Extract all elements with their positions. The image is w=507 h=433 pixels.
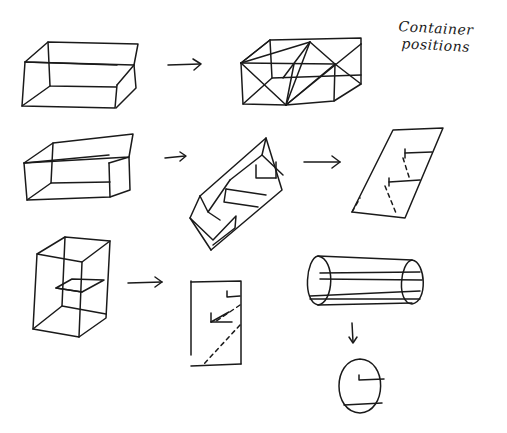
box-horizontal-triangulated-stroke <box>270 40 272 78</box>
box-rotated-on-edge-stroke <box>190 216 236 245</box>
arrow-1-stroke <box>168 64 200 65</box>
sketch-canvas <box>0 0 507 433</box>
arrow-1 <box>168 59 201 70</box>
cylinder-stroke <box>307 256 330 305</box>
box-tilted-stroke <box>27 183 51 200</box>
box-horizontal-triangulated-stroke <box>283 42 310 78</box>
box-tall-stroke <box>33 306 62 329</box>
plane-sheared-dashed-stroke <box>385 186 396 213</box>
box-horizontal-triangulated-stroke <box>241 63 286 105</box>
arrow-3 <box>304 156 340 168</box>
box-horizontal-triangulated-stroke <box>334 64 335 101</box>
box-horizontal-triangulated-stroke <box>241 42 310 63</box>
box-rotated-on-edge-stroke <box>226 189 266 195</box>
plane-sheared-dashed-stroke <box>352 198 360 212</box>
rect-front-view-stroke <box>191 364 241 366</box>
plane-sheared-stroke <box>389 180 420 182</box>
box-tilted-stroke <box>24 134 133 163</box>
box-tilted-stroke <box>51 143 110 183</box>
box-horizontal-triangulated <box>241 38 361 105</box>
plane-sheared-stroke <box>352 128 443 218</box>
box-horizontal-stroke <box>117 65 134 85</box>
box-rotated-on-edge <box>190 138 283 250</box>
arrow-down-stroke <box>352 323 353 342</box>
rect-front-view <box>191 281 241 366</box>
cylinder-stroke <box>318 256 412 260</box>
arrow-4-stroke <box>128 282 162 283</box>
cylinder-stroke <box>320 279 422 280</box>
arrow-4 <box>128 277 162 287</box>
cylinder <box>307 256 423 305</box>
box-rotated-on-edge-stroke <box>208 212 220 220</box>
box-tall <box>33 237 110 337</box>
plane-sheared-dashed-stroke <box>403 158 410 180</box>
annotation-container-positions: Container positions <box>397 18 474 56</box>
cylinder-stroke <box>318 303 412 305</box>
box-rotated-on-edge-stroke <box>256 165 276 178</box>
box-tall-stroke <box>33 254 82 337</box>
box-horizontal <box>22 42 138 108</box>
box-horizontal-triangulated-stroke <box>241 40 270 63</box>
plane-sheared-stroke <box>405 152 432 153</box>
box-horizontal-stroke <box>22 62 117 108</box>
cylinder-stroke <box>401 260 423 304</box>
box-tall-stroke <box>56 288 82 292</box>
arrow-2-stroke <box>165 156 185 158</box>
cylinder-stroke <box>320 272 420 273</box>
rect-front-view-stroke <box>227 291 240 297</box>
box-rotated-on-edge-stroke <box>262 138 283 175</box>
box-tall-stroke <box>37 237 110 262</box>
arrow-2 <box>165 152 186 161</box>
circle-front-view-stroke <box>344 403 382 405</box>
arrow-down <box>349 323 357 343</box>
rect-front-view-dashed-stroke <box>203 325 240 365</box>
box-horizontal-stroke <box>116 65 136 108</box>
box-tilted-stroke <box>109 157 130 197</box>
box-tilted <box>24 134 133 200</box>
annotation-line-2: positions <box>401 35 473 56</box>
box-rotated-on-edge-stroke <box>190 196 211 250</box>
circle-front-view <box>339 359 384 413</box>
box-rotated-on-edge-stroke <box>200 138 282 250</box>
box-tall-stroke <box>79 241 110 337</box>
box-horizontal-stroke <box>25 42 138 65</box>
plane-sheared <box>352 128 443 218</box>
box-horizontal-stroke <box>22 86 50 106</box>
box-rotated-on-edge-stroke <box>230 155 262 180</box>
box-horizontal-triangulated-stroke <box>310 42 335 64</box>
box-horizontal-triangulated-stroke <box>243 75 361 104</box>
